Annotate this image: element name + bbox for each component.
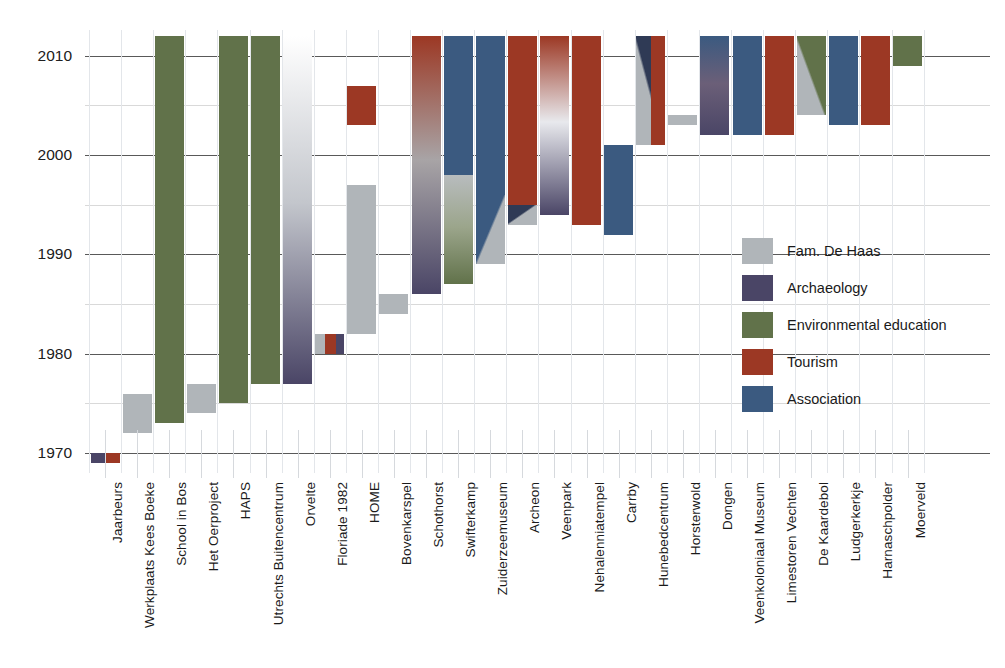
bar-segment (733, 36, 762, 135)
legend-swatch-icon (742, 238, 773, 264)
x-tick-label-dongen: Dongen (720, 482, 735, 530)
x-tick (651, 430, 652, 478)
y-tick-label-1990: 1990 (38, 245, 72, 263)
x-tick-label-hunebedcentrum: Hunebedcentrum (656, 482, 671, 587)
legend-item-environmental-education[interactable]: Environmental education (742, 306, 992, 343)
x-tick-label-archeon: Archeon (527, 482, 542, 533)
bar-segment (765, 36, 794, 135)
x-tick (779, 430, 780, 478)
bar-segment (572, 36, 601, 225)
bar-segment (861, 36, 890, 125)
timeline-bar (251, 30, 280, 473)
y-axis-labels: 19701980199020002010 (0, 30, 80, 473)
x-tick-label-floriade-1982: Floriade 1982 (335, 482, 350, 566)
legend-item-fam-de-haas[interactable]: Fam. De Haas (742, 232, 992, 269)
bar-segment (412, 36, 441, 294)
x-axis-labels: JaarbeursWerkplaats Kees BoekeSchool in … (85, 478, 990, 668)
legend-item-archaeology[interactable]: Archaeology (742, 269, 992, 306)
legend-label: Environmental education (787, 317, 947, 333)
x-tick (811, 430, 812, 478)
legend-label: Fam. De Haas (787, 243, 880, 259)
x-tick-label-school-in-bos: School in Bos (174, 482, 189, 566)
chart-legend: Fam. De HaasArchaeologyEnvironmental edu… (742, 232, 992, 417)
x-tick (201, 430, 202, 478)
x-tick-label-de-kaardebol: De Kaardebol (816, 482, 831, 566)
x-tick-label-limestoren-vechten: Limestoren Vechten (784, 482, 799, 603)
timeline-bar (476, 30, 505, 473)
x-tick-label-moerveld: Moerveld (913, 482, 928, 538)
x-tick-label-het-oerproject: Het Oerproject (206, 482, 221, 571)
x-tick-label-harnaschpolder: Harnaschpolder (880, 482, 895, 579)
legend-item-association[interactable]: Association (742, 380, 992, 417)
y-tick-label-1980: 1980 (38, 345, 72, 363)
x-tick (843, 430, 844, 478)
x-tick (137, 430, 138, 478)
x-tick (554, 430, 555, 478)
x-tick-label-veenkoloniaal-museum: Veenkoloniaal Museum (752, 482, 767, 624)
timeline-bar (91, 30, 120, 473)
x-tick (458, 430, 459, 478)
x-tick-label-veenpark: Veenpark (559, 482, 574, 540)
timeline-bar (315, 30, 344, 473)
bar-segment (476, 36, 505, 195)
x-tick (233, 430, 234, 478)
x-tick (747, 430, 748, 478)
bar-segment (508, 36, 537, 205)
x-tick-label-home: HOME (367, 482, 382, 523)
x-tick (394, 430, 395, 478)
x-tick-label-zuiderzeemuseum: Zuiderzeemuseum (495, 482, 510, 595)
x-tick (105, 430, 106, 478)
timeline-bar (540, 30, 569, 473)
x-tick (330, 430, 331, 478)
bar-segment (379, 294, 408, 314)
timeline-bar (508, 30, 537, 473)
timeline-bar (187, 30, 216, 473)
bar-segment (444, 175, 473, 284)
legend-swatch-icon (742, 349, 773, 375)
x-tick (490, 430, 491, 478)
timeline-bar (155, 30, 184, 473)
bar-segment (155, 36, 184, 423)
x-tick-label-haps: HAPS (238, 482, 253, 519)
x-tick-label-schothorst: Schothorst (431, 482, 446, 548)
x-tick-label-horsterwold: Horsterwold (688, 482, 703, 555)
timeline-bar (219, 30, 248, 473)
legend-item-tourism[interactable]: Tourism (742, 343, 992, 380)
x-tick (875, 430, 876, 478)
timeline-bar (123, 30, 152, 473)
x-tick (298, 430, 299, 478)
legend-label: Tourism (787, 354, 838, 370)
timeline-bar (283, 30, 312, 473)
x-tick-label-carrby: Carrby (624, 482, 639, 523)
bar-segment (604, 145, 633, 234)
bar-segment (187, 384, 216, 414)
x-tick (908, 430, 909, 478)
bar-segment (283, 36, 312, 384)
y-tick-label-2010: 2010 (38, 47, 72, 65)
y-tick-label-1970: 1970 (38, 444, 72, 462)
legend-label: Archaeology (787, 280, 868, 296)
x-tick (715, 430, 716, 478)
bar-segment (893, 36, 922, 66)
x-tick-label-utrechts-buitencentrum: Utrechts Buitencentrum (271, 482, 286, 625)
legend-label: Association (787, 391, 861, 407)
timeline-bar (444, 30, 473, 473)
legend-swatch-icon (742, 386, 773, 412)
timeline-bar (668, 30, 697, 473)
x-tick-label-nehalenniatempel: Nehalenniatempel (592, 482, 607, 592)
bar-segment (700, 36, 729, 135)
timeline-bar (604, 30, 633, 473)
bar-segment (251, 36, 280, 384)
chart-root: 19701980199020002010 JaarbeursWerkplaats… (0, 0, 1005, 668)
x-tick (362, 430, 363, 478)
x-tick-label-jaarbeurs: Jaarbeurs (110, 482, 125, 543)
bar-segment (444, 36, 473, 175)
timeline-bar (379, 30, 408, 473)
x-tick (683, 430, 684, 478)
bar-segment (476, 195, 505, 265)
timeline-bar (412, 30, 441, 473)
x-tick-label-ludgerkerkje: Ludgerkerkje (848, 482, 863, 561)
timeline-bar (572, 30, 601, 473)
x-tick (587, 430, 588, 478)
y-tick-label-2000: 2000 (38, 146, 72, 164)
